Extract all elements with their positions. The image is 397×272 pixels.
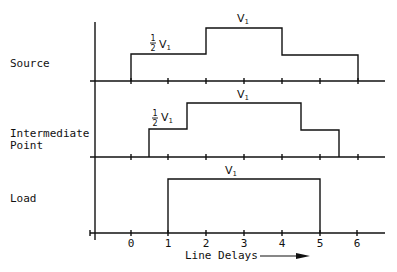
svg-text:V1: V1 <box>237 88 249 102</box>
svg-text:1: 1 <box>150 34 155 43</box>
source-waveform <box>131 28 358 81</box>
source-half-v1-label: 1 2 V1 <box>150 34 171 53</box>
svg-text:V1: V1 <box>161 111 173 125</box>
tick-label-6: 6 <box>354 237 361 250</box>
svg-text:1: 1 <box>152 109 157 118</box>
svg-text:V1: V1 <box>237 12 249 26</box>
intermediate-waveform <box>149 103 339 157</box>
row-source: Source 1 2 V1 V1 <box>10 12 385 84</box>
row-intermediate-point: Intermediate Point 1 2 V1 V1 <box>10 88 385 160</box>
tick-label-4: 4 <box>279 237 286 250</box>
tick-label-1: 1 <box>165 237 172 250</box>
transmission-line-timing-diagram: Source 1 2 V1 V1 Intermediate Point <box>0 0 397 272</box>
row-label-point: Point <box>10 139 43 152</box>
x-axis-label: Line Delays <box>185 249 258 262</box>
svg-text:2: 2 <box>152 119 157 128</box>
load-v1-label: V1 <box>225 164 237 178</box>
load-waveform <box>168 179 320 233</box>
intermediate-half-v1-label: 1 2 V1 <box>152 109 173 128</box>
tick-label-5: 5 <box>317 237 324 250</box>
svg-text:2: 2 <box>150 44 155 53</box>
svg-text:V1: V1 <box>159 38 171 52</box>
svg-text:V1: V1 <box>225 164 237 178</box>
row-label-source: Source <box>10 57 50 70</box>
tick-label-0: 0 <box>128 237 135 250</box>
right-arrow-icon <box>260 253 310 259</box>
row-label-load: Load <box>10 192 37 205</box>
row-load: Load V1 <box>10 164 385 236</box>
source-v1-label: V1 <box>237 12 249 26</box>
intermediate-v1-label: V1 <box>237 88 249 102</box>
